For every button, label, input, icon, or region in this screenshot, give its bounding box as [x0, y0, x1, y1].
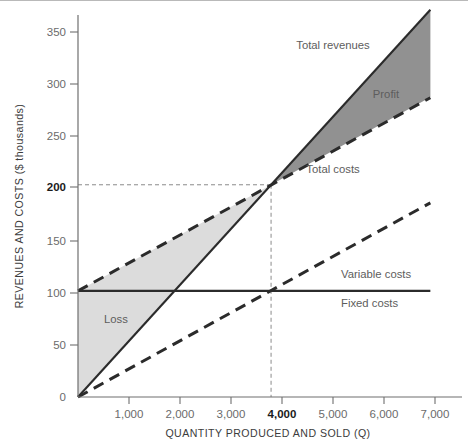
x-axis-tick-labels: 1,000 2,000 3,000 4,000 5,000 6,000 7,00…	[115, 408, 450, 420]
x-tick-label-break-even: 4,000	[268, 408, 297, 420]
x-tick-label: 5,000	[319, 408, 348, 420]
region-label-loss: Loss	[104, 313, 128, 325]
x-axis	[78, 397, 462, 404]
y-tick-label: 0	[60, 391, 66, 403]
region-label-profit: Profit	[373, 88, 400, 100]
break-even-chart: 350 300 250 200 150 100 50 0 1,000 2,000…	[0, 0, 468, 443]
series-total-costs	[78, 98, 430, 291]
x-tick-label: 6,000	[370, 408, 399, 420]
y-tick-label: 100	[47, 287, 66, 299]
series-label-total-costs: Total costs	[306, 163, 360, 175]
x-tick-label: 1,000	[115, 408, 144, 420]
series-total-revenues	[78, 10, 430, 397]
x-tick-label: 7,000	[421, 408, 450, 420]
series-label-fixed-costs: Fixed costs	[341, 297, 398, 309]
x-tick-label: 2,000	[166, 408, 195, 420]
x-tick-label: 3,000	[217, 408, 246, 420]
y-axis-title: REVENUES AND COSTS ($ thousands)	[13, 104, 25, 309]
y-axis-tick-labels: 350 300 250 200 150 100 50 0	[47, 26, 66, 403]
y-tick-label: 50	[53, 339, 66, 351]
break-even-chart-svg: 350 300 250 200 150 100 50 0 1,000 2,000…	[0, 1, 468, 443]
y-tick-label: 300	[47, 78, 66, 90]
x-axis-title: QUANTITY PRODUCED AND SOLD (Q)	[165, 427, 370, 439]
y-tick-label: 250	[47, 130, 66, 142]
series-label-total-revenues: Total revenues	[296, 39, 370, 51]
y-tick-label: 350	[47, 26, 66, 38]
y-axis	[70, 15, 78, 397]
series-label-variable-costs: Variable costs	[341, 268, 411, 280]
y-tick-label: 150	[47, 235, 66, 247]
y-tick-label-break-even: 200	[47, 181, 66, 193]
